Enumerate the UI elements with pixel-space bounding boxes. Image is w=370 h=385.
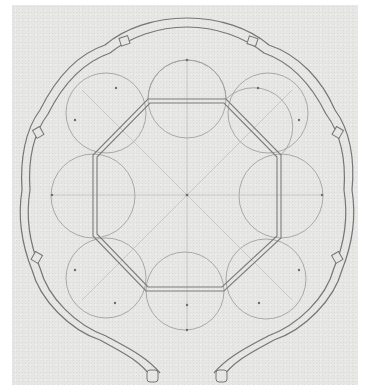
apse-circle-bottom-right [226,239,306,319]
floor-plan-drawing [0,0,370,385]
apse-top-right [226,88,293,155]
